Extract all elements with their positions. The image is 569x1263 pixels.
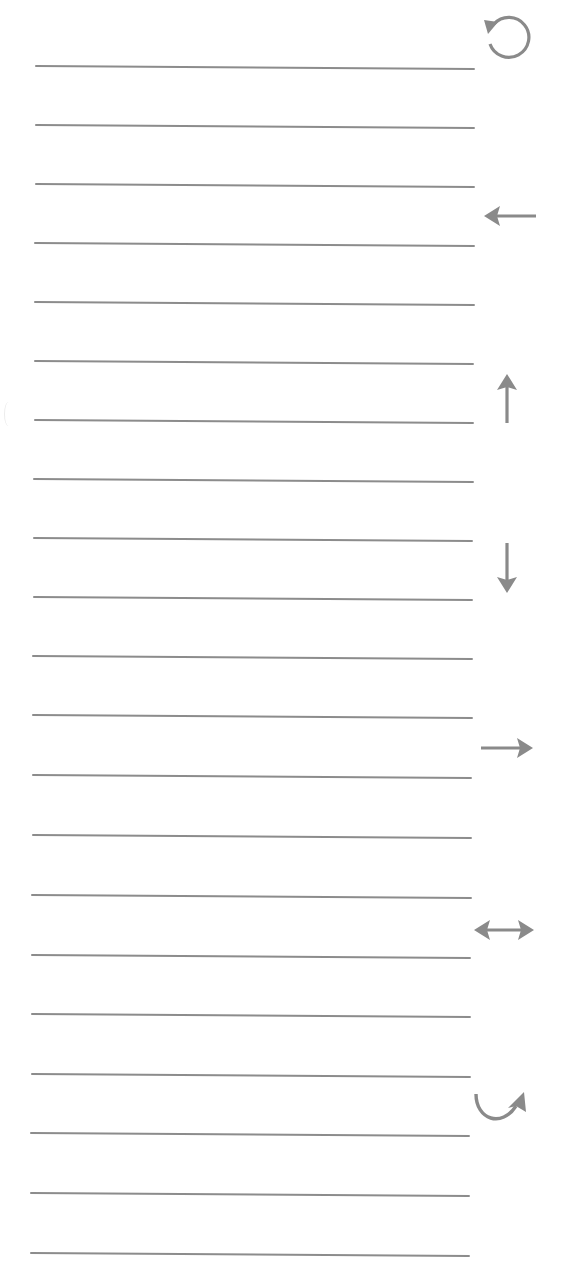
ruled-line (35, 183, 475, 188)
arrow-down-icon (475, 537, 539, 601)
arrow-left-right-icon (470, 898, 534, 962)
ruled-line (30, 1252, 470, 1257)
ruled-line (32, 834, 472, 839)
ruled-line (35, 65, 475, 70)
arrow-up-icon (475, 366, 539, 430)
lined-worksheet (0, 0, 569, 1263)
ruled-line (34, 242, 475, 247)
ruled-line (32, 714, 473, 719)
ruled-line (34, 301, 475, 306)
ruled-line (33, 478, 474, 483)
ruled-line (31, 1073, 471, 1078)
ruled-line (33, 537, 473, 542)
ruled-line (33, 596, 473, 601)
ruled-line (30, 1192, 470, 1197)
ruled-line (34, 360, 474, 365)
faint-mark (4, 402, 13, 426)
ruled-line (31, 894, 472, 899)
ruled-line (32, 774, 472, 779)
arrow-left-icon (478, 184, 542, 248)
ruled-line (34, 419, 474, 424)
ruled-line (30, 1132, 470, 1137)
ruled-line (35, 124, 475, 129)
rotate-counterclockwise-icon (472, 4, 536, 68)
arrow-right-icon (475, 716, 539, 780)
ruled-line (31, 1013, 471, 1018)
ruled-line (32, 655, 473, 660)
ruled-line (31, 954, 471, 959)
curved-arrow-up-right-icon (468, 1078, 532, 1142)
